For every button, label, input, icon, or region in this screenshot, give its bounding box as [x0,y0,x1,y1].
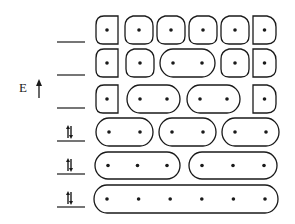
electron-dot [105,197,109,201]
orbital-group [157,16,185,44]
orbital-row [96,49,276,77]
orbital-group [253,16,276,44]
orbital-row [94,185,278,213]
electron-dot [262,164,266,168]
electron-dot [105,61,109,65]
electron-dot [200,164,204,168]
group-outline [127,85,180,113]
orbital-group [189,152,277,179]
orbital-group [127,85,180,113]
orbital-group [96,16,118,44]
electron-dot [232,197,236,201]
orbital-group [96,49,118,77]
electron-dot [168,197,172,201]
orbital-group [96,85,118,113]
electron-dot [198,97,202,101]
electron-dot [225,97,229,101]
electron-dot [233,28,237,32]
energy-axis-label: E [19,80,27,96]
group-outline [159,118,216,146]
orbital-group [253,49,276,77]
energy-level-diagram [0,0,295,224]
electron-dot [137,28,141,32]
spin-pair-icon [66,191,73,205]
orbital-group [95,152,180,179]
group-outline [96,118,153,146]
spin-pair-icon [66,158,73,172]
electron-dot [201,28,205,32]
orbital-group [222,118,279,146]
orbital-group [94,185,278,213]
electron-dot [107,130,111,134]
electron-dot [138,97,142,101]
energy-level [57,158,85,174]
energy-level [57,125,85,141]
orbital-group [187,85,240,113]
electron-dot [200,61,204,65]
orbital-group [221,16,249,44]
electron-dot [200,197,204,201]
orbital-group [126,49,154,77]
electron-dot [165,164,169,168]
electron-dot [105,97,109,101]
orbital-row [96,118,279,146]
group-outline [94,185,278,213]
electron-dot [231,164,235,168]
orbital-row [96,16,276,44]
electron-dot [169,28,173,32]
orbital-group [96,118,153,146]
electron-dot [233,61,237,65]
spin-pair-icon [66,125,73,139]
electron-dot [201,130,205,134]
electron-dot [137,197,141,201]
electron-dot [263,97,267,101]
orbital-row [96,85,276,113]
energy-level [57,191,85,207]
orbital-group [221,49,249,77]
orbital-group [159,118,216,146]
orbital-group [125,16,153,44]
orbital-group [253,85,276,113]
orbital-row [95,152,277,179]
electron-dot [136,164,140,168]
electron-dot [170,130,174,134]
electron-dot [263,197,267,201]
electron-dot [138,130,142,134]
electron-dot [171,61,175,65]
up-arrow-icon [36,79,42,98]
group-outline [160,49,215,77]
electron-dot [264,130,268,134]
electron-dot [263,28,267,32]
electron-dot [105,28,109,32]
orbital-group [160,49,215,77]
electron-dot [138,61,142,65]
orbital-group [189,16,217,44]
electron-dot [233,130,237,134]
group-outline [187,85,240,113]
group-outline [222,118,279,146]
electron-dot [106,164,110,168]
electron-dot [165,97,169,101]
electron-dot [263,61,267,65]
